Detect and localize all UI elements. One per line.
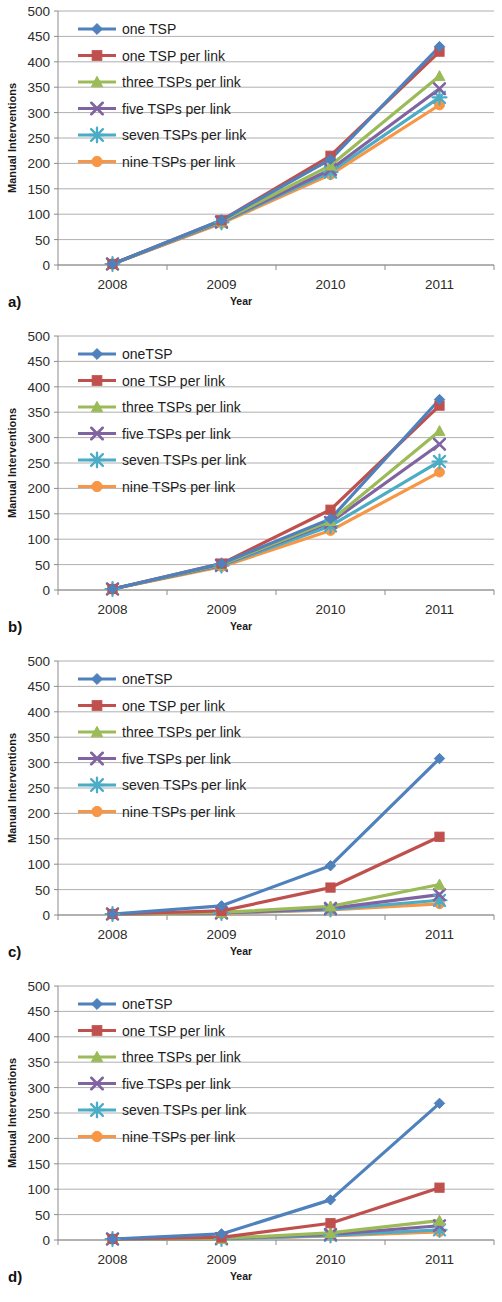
y-axis-tick-label: 250 xyxy=(27,131,50,146)
legend-item: seven TSPs per link xyxy=(78,127,247,143)
y-axis-tick-label: 300 xyxy=(27,756,50,771)
series-data-point-marker xyxy=(435,1183,444,1192)
legend-item-label: seven TSPs per link xyxy=(122,1102,247,1118)
x-axis-tick-label: 2011 xyxy=(425,1252,454,1267)
legend-swatch-marker xyxy=(90,128,105,143)
y-axis-tick-label: 250 xyxy=(27,1106,50,1121)
y-axis-tick-label: 50 xyxy=(35,558,50,573)
x-axis-title: Year xyxy=(230,620,252,632)
x-axis-tick-label: 2008 xyxy=(97,277,127,292)
legend-item-label: five TSPs per link xyxy=(122,751,232,767)
y-axis-tick-label: 100 xyxy=(27,532,50,547)
x-axis-title: Year xyxy=(230,945,252,957)
x-axis-tick-label: 2010 xyxy=(315,927,345,942)
legend-item-label: oneTSP xyxy=(122,346,173,362)
legend-swatch-marker xyxy=(92,1026,102,1036)
y-axis-tick-label: 450 xyxy=(27,1004,50,1019)
y-axis-title: Manual Interventions xyxy=(6,733,18,843)
legend-item-label: seven TSPs per link xyxy=(122,127,247,143)
y-axis-tick-label: 350 xyxy=(27,80,50,95)
panel-letter-label: b) xyxy=(8,618,22,635)
series-data-point-marker xyxy=(435,832,444,841)
legend-swatch-marker xyxy=(92,701,102,711)
y-axis-tick-label: 50 xyxy=(35,233,50,248)
y-axis-tick-label: 500 xyxy=(27,329,50,344)
y-axis-tick-label: 0 xyxy=(42,1233,50,1248)
legend-item-label: seven TSPs per link xyxy=(122,777,247,793)
legend-item-label: oneTSP xyxy=(122,996,173,1012)
legend-swatch-marker xyxy=(92,806,102,816)
chart-panel-a: 0501001502002503003504004505002008200920… xyxy=(0,0,502,325)
line-chart-svg: 0501001502002503003504004505002008200920… xyxy=(0,975,502,1300)
legend-swatch-marker xyxy=(90,453,105,468)
legend-item-label: five TSPs per link xyxy=(122,101,232,117)
x-axis-tick-label: 2009 xyxy=(206,927,236,942)
y-axis-tick-label: 350 xyxy=(27,405,50,420)
y-axis-tick-label: 100 xyxy=(27,1182,50,1197)
y-axis-tick-label: 350 xyxy=(27,730,50,745)
legend-item-label: seven TSPs per link xyxy=(122,452,247,468)
legend-item-label: one TSP per link xyxy=(122,1023,226,1039)
y-axis-tick-label: 0 xyxy=(42,258,50,273)
y-axis-tick-label: 300 xyxy=(27,106,50,121)
legend-item-label: nine TSPs per link xyxy=(122,804,236,820)
y-axis-tick-label: 250 xyxy=(27,781,50,796)
x-axis-tick-label: 2008 xyxy=(97,602,127,617)
y-axis-tick-label: 450 xyxy=(27,679,50,694)
series-data-point-marker xyxy=(326,1219,335,1228)
x-axis-tick-label: 2011 xyxy=(425,927,454,942)
y-axis-tick-label: 500 xyxy=(27,979,50,994)
y-axis-tick-label: 300 xyxy=(27,1081,50,1096)
x-axis-tick-label: 2009 xyxy=(206,602,236,617)
y-axis-title: Manual Interventions xyxy=(6,408,18,518)
legend-swatch-marker xyxy=(92,51,102,61)
series-data-point-marker xyxy=(326,883,335,892)
legend-swatch-marker xyxy=(92,1131,102,1141)
legend-item-label: three TSPs per link xyxy=(122,724,242,740)
y-axis-tick-label: 300 xyxy=(27,431,50,446)
legend-swatch-marker xyxy=(92,376,102,386)
y-axis-tick-label: 400 xyxy=(27,705,50,720)
legend-item: five TSPs per link xyxy=(78,751,232,767)
y-axis-tick-label: 400 xyxy=(27,1030,50,1045)
x-axis-tick-label: 2008 xyxy=(97,1252,127,1267)
x-axis-tick-label: 2008 xyxy=(97,927,127,942)
y-axis-tick-label: 450 xyxy=(27,354,50,369)
x-axis-tick-label: 2010 xyxy=(315,277,345,292)
legend-item: seven TSPs per link xyxy=(78,452,247,468)
x-axis-tick-label: 2011 xyxy=(425,277,454,292)
legend-swatch-marker xyxy=(90,778,105,793)
legend-item: five TSPs per link xyxy=(78,1076,232,1092)
figure-multipanel-line-charts: 0501001502002503003504004505002008200920… xyxy=(0,0,502,1300)
legend-item: five TSPs per link xyxy=(78,426,232,442)
legend-item-label: three TSPs per link xyxy=(122,1049,242,1065)
y-axis-tick-label: 200 xyxy=(27,1131,50,1146)
x-axis-title: Year xyxy=(230,1270,252,1282)
legend-item-label: oneTSP xyxy=(122,671,173,687)
legend-item-label: three TSPs per link xyxy=(122,399,242,415)
y-axis-title: Manual Interventions xyxy=(6,83,18,193)
legend-item-label: one TSP per link xyxy=(122,698,226,714)
line-chart-svg: 0501001502002503003504004505002008200920… xyxy=(0,325,502,650)
y-axis-tick-label: 200 xyxy=(27,481,50,496)
y-axis-tick-label: 450 xyxy=(27,29,50,44)
y-axis-tick-label: 100 xyxy=(27,857,50,872)
legend-swatch-marker xyxy=(90,1103,105,1118)
x-axis-tick-label: 2009 xyxy=(206,1252,236,1267)
legend-item-label: five TSPs per link xyxy=(122,1076,232,1092)
panel-letter-label: a) xyxy=(8,293,21,310)
chart-panel-c: 0501001502002503003504004505002008200920… xyxy=(0,650,502,975)
legend-swatch-marker xyxy=(92,156,102,166)
x-axis-tick-label: 2011 xyxy=(425,602,454,617)
legend-item-label: one TSP per link xyxy=(122,48,226,64)
series-data-point-marker xyxy=(326,505,335,514)
y-axis-tick-label: 150 xyxy=(27,507,50,522)
chart-panel-d: 0501001502002503003504004505002008200920… xyxy=(0,975,502,1300)
legend-item-label: one TSP xyxy=(122,21,176,37)
x-axis-title: Year xyxy=(230,295,252,307)
y-axis-tick-label: 150 xyxy=(27,182,50,197)
line-chart-svg: 0501001502002503003504004505002008200920… xyxy=(0,650,502,975)
y-axis-tick-label: 150 xyxy=(27,1157,50,1172)
x-axis-tick-label: 2009 xyxy=(206,277,236,292)
y-axis-tick-label: 0 xyxy=(42,908,50,923)
